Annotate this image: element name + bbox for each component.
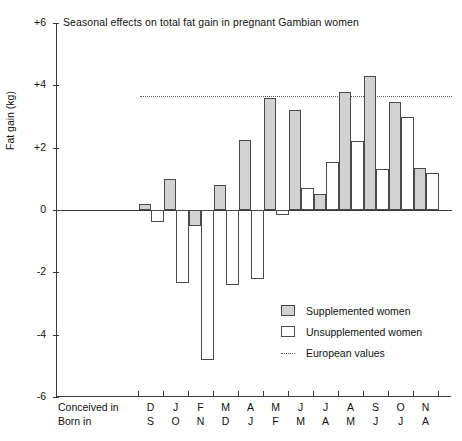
x-category-conceived: J — [164, 401, 188, 413]
bar-unsupplemented-JA — [326, 162, 339, 210]
y-tick-label: -2 — [20, 265, 46, 277]
bar-supplemented-JM — [289, 110, 302, 210]
chart-title: Seasonal effects on total fat gain in pr… — [63, 16, 359, 28]
y-tick-label: 0 — [20, 203, 46, 215]
chart-legend: Supplemented women Unsupplemented women … — [281, 300, 422, 363]
bar-unsupplemented-NA — [426, 173, 439, 210]
y-tick-mark — [53, 23, 59, 24]
bar-supplemented-SJ — [364, 76, 377, 210]
bar-unsupplemented-AM — [351, 141, 364, 210]
bar-supplemented-NA — [414, 168, 427, 210]
bar-unsupplemented-DS — [151, 210, 164, 222]
bar-supplemented-JA — [314, 194, 327, 210]
x-tick-mark — [313, 391, 314, 396]
x-category-born: F — [264, 415, 288, 427]
x-tick-mark — [338, 391, 339, 396]
legend-label-unsupplemented: Unsupplemented women — [306, 326, 422, 338]
european-values-reference-line — [140, 96, 452, 97]
x-category-born: D — [214, 415, 238, 427]
bar-supplemented-OJ — [389, 102, 402, 210]
bar-unsupplemented-SJ — [376, 169, 389, 210]
x-category-born: J — [389, 415, 413, 427]
x-tick-mark — [413, 391, 414, 396]
legend-swatch-supplemented-icon — [281, 305, 295, 316]
y-tick-label: +2 — [20, 141, 46, 153]
y-tick-label: -6 — [20, 390, 46, 402]
legend-swatch-european-values-icon — [281, 353, 295, 354]
y-tick-label: +6 — [20, 16, 46, 28]
x-category-born: O — [164, 415, 188, 427]
x-category-conceived: M — [214, 401, 238, 413]
bar-unsupplemented-MF — [276, 210, 289, 215]
born-in-label: Born in — [58, 415, 91, 427]
legend-item-european-values: European values — [281, 342, 422, 363]
x-category-born: N — [189, 415, 213, 427]
x-category-born: J — [364, 415, 388, 427]
legend-item-supplemented: Supplemented women — [281, 300, 422, 321]
x-category-conceived: J — [314, 401, 338, 413]
y-tick-mark — [53, 85, 59, 86]
y-tick-label: -4 — [20, 328, 46, 340]
x-category-conceived: M — [264, 401, 288, 413]
bar-unsupplemented-FN — [201, 210, 214, 360]
x-tick-mark — [238, 391, 239, 396]
bar-supplemented-JO — [164, 179, 177, 210]
x-category-conceived: J — [289, 401, 313, 413]
y-tick-label: +4 — [20, 78, 46, 90]
bar-supplemented-MD — [214, 185, 227, 210]
conceived-in-label: Conceived in — [58, 401, 119, 413]
x-category-conceived: D — [139, 401, 163, 413]
bar-supplemented-FN — [189, 210, 202, 226]
bar-unsupplemented-AJ — [251, 210, 264, 279]
x-category-born: M — [289, 415, 313, 427]
x-category-conceived: A — [239, 401, 263, 413]
x-tick-mark — [288, 391, 289, 396]
x-tick-mark — [388, 391, 389, 396]
x-category-conceived: N — [414, 401, 438, 413]
y-axis-label: Fat gain (kg) — [4, 91, 16, 150]
bar-supplemented-DS — [139, 204, 152, 210]
legend-label-european-values: European values — [306, 347, 385, 359]
x-category-born: A — [414, 415, 438, 427]
bar-supplemented-AJ — [239, 140, 252, 210]
legend-swatch-unsupplemented-icon — [281, 326, 295, 337]
bar-supplemented-MF — [264, 98, 277, 210]
y-tick-mark — [53, 335, 59, 336]
bar-unsupplemented-MD — [226, 210, 239, 285]
x-category-born: J — [239, 415, 263, 427]
x-tick-mark — [213, 391, 214, 396]
y-tick-mark — [53, 272, 59, 273]
x-category-conceived: F — [189, 401, 213, 413]
y-tick-mark — [53, 148, 59, 149]
x-tick-mark — [163, 391, 164, 396]
bar-supplemented-AM — [339, 92, 352, 210]
x-category-conceived: S — [364, 401, 388, 413]
bar-unsupplemented-JO — [176, 210, 189, 283]
bar-unsupplemented-OJ — [401, 117, 414, 211]
x-category-born: A — [314, 415, 338, 427]
legend-label-supplemented: Supplemented women — [306, 305, 410, 317]
x-category-conceived: A — [339, 401, 363, 413]
x-tick-mark — [363, 391, 364, 396]
x-tick-mark — [138, 391, 139, 396]
x-tick-mark — [438, 391, 439, 396]
x-tick-mark — [188, 391, 189, 396]
x-category-conceived: O — [389, 401, 413, 413]
legend-item-unsupplemented: Unsupplemented women — [281, 321, 422, 342]
bar-unsupplemented-JM — [301, 188, 314, 210]
x-axis-line — [56, 396, 451, 397]
chart-canvas: Seasonal effects on total fat gain in pr… — [0, 0, 462, 441]
x-category-born: M — [339, 415, 363, 427]
x-tick-mark — [263, 391, 264, 396]
x-category-born: S — [139, 415, 163, 427]
y-tick-mark — [53, 397, 59, 398]
